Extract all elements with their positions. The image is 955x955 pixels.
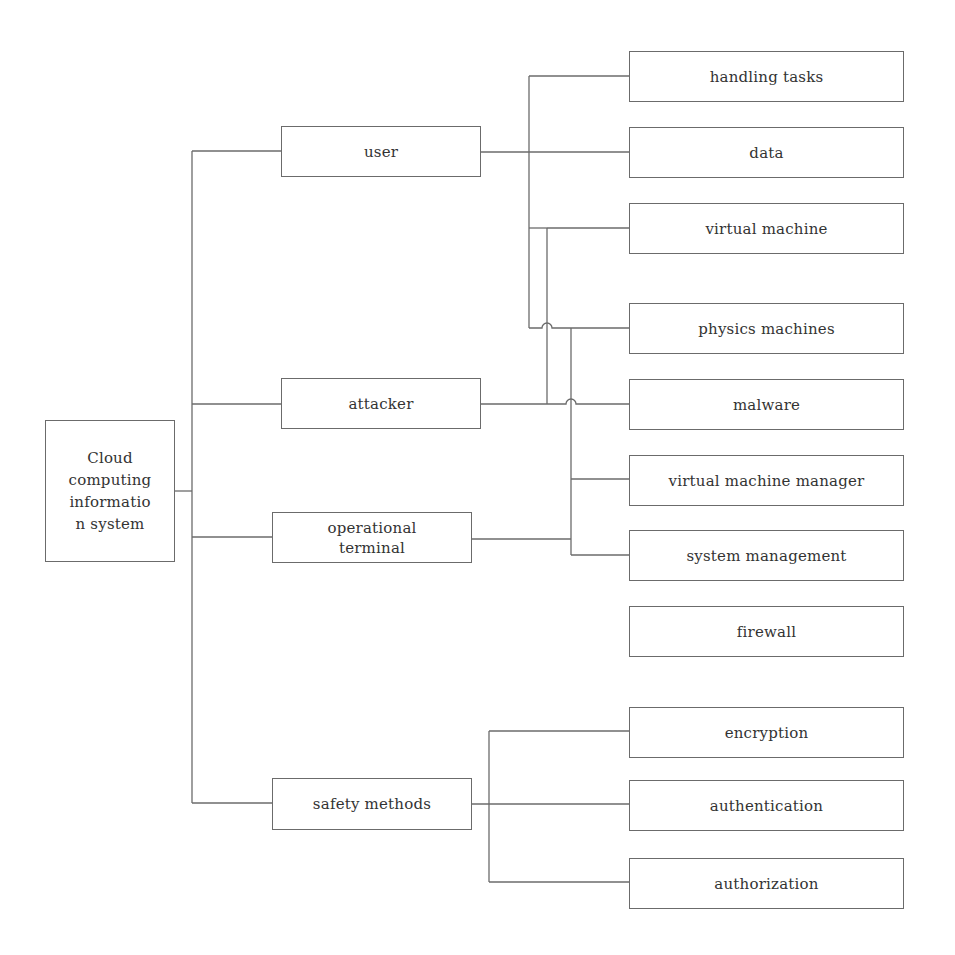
- node-virtual-machine: virtual machine: [629, 203, 904, 254]
- cloud-security-diagram: Cloud computing informatio n system user…: [0, 0, 955, 955]
- node-firewall: firewall: [629, 606, 904, 657]
- node-safety-methods: safety methods: [272, 778, 472, 830]
- node-encryption-label: encryption: [725, 722, 809, 744]
- node-data: data: [629, 127, 904, 178]
- node-virtual-machine-label: virtual machine: [705, 218, 827, 240]
- node-virtual-machine-manager: virtual machine manager: [629, 455, 904, 506]
- node-authorization: authorization: [629, 858, 904, 909]
- node-virtual-machine-manager-label: virtual machine manager: [669, 470, 865, 492]
- node-attacker: attacker: [281, 378, 481, 429]
- node-physics-machines-label: physics machines: [698, 318, 835, 340]
- node-system-management-label: system management: [686, 545, 846, 567]
- node-operational-terminal: operational terminal: [272, 512, 472, 563]
- root-node-cloud-computing-information-system: Cloud computing informatio n system: [45, 420, 175, 562]
- node-handling-tasks-label: handling tasks: [710, 66, 824, 88]
- node-safety-methods-label: safety methods: [313, 793, 431, 815]
- node-user: user: [281, 126, 481, 177]
- node-operational-terminal-label: operational terminal: [327, 518, 416, 558]
- node-handling-tasks: handling tasks: [629, 51, 904, 102]
- node-user-label: user: [364, 141, 398, 163]
- root-node-label: Cloud computing informatio n system: [69, 447, 152, 535]
- node-firewall-label: firewall: [737, 621, 796, 643]
- node-authorization-label: authorization: [714, 873, 818, 895]
- node-encryption: encryption: [629, 707, 904, 758]
- node-malware-label: malware: [733, 394, 800, 416]
- node-system-management: system management: [629, 530, 904, 581]
- node-data-label: data: [749, 142, 783, 164]
- node-malware: malware: [629, 379, 904, 430]
- node-authentication: authentication: [629, 780, 904, 831]
- node-authentication-label: authentication: [710, 795, 823, 817]
- node-attacker-label: attacker: [348, 393, 413, 415]
- node-physics-machines: physics machines: [629, 303, 904, 354]
